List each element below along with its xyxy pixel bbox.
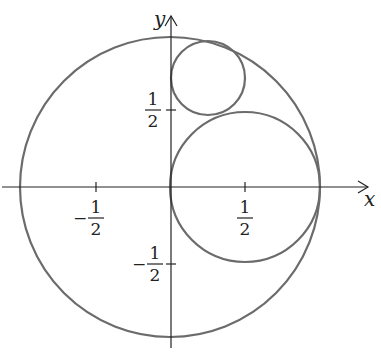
y-axis-label: y [153,7,166,31]
svg-text:2: 2 [148,111,159,131]
svg-text:1: 1 [150,243,161,263]
small-circle [171,41,245,115]
svg-text:2: 2 [91,219,102,239]
diagram-canvas: x y 1 2 − 1 2 1 2 − 1 2 [0,0,381,360]
svg-text:−: − [132,254,146,274]
svg-text:1: 1 [148,89,159,109]
y-tick-label-neg: − 1 2 [132,243,163,285]
svg-text:1: 1 [240,197,251,217]
y-tick-label-pos: 1 2 [145,89,161,131]
svg-text:2: 2 [150,265,161,285]
x-tick-label-neg: − 1 2 [73,197,104,239]
svg-text:2: 2 [240,219,251,239]
x-axis-label: x [364,187,375,211]
svg-text:1: 1 [91,197,102,217]
svg-text:−: − [73,208,87,228]
x-tick-label-pos: 1 2 [237,197,253,239]
